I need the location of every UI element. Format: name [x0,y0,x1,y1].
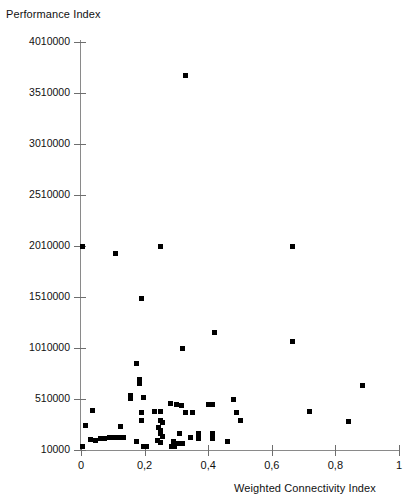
data-point-marker [212,330,217,335]
data-point-marker [158,440,163,445]
y-axis-tick-label: 3510000 [4,86,70,98]
data-point-marker [90,408,95,413]
y-axis-tick-label: 2010000 [4,239,70,251]
y-axis-tick-label: 4010000 [4,35,70,47]
x-axis-title: Weighted Connectivity Index [234,482,376,494]
data-point-marker [137,381,142,386]
data-point-marker [180,346,185,351]
y-axis-title: Performance Index [6,8,101,20]
data-point-marker [238,418,243,423]
plot-area [81,42,399,450]
data-point-marker [168,401,173,406]
data-point-marker [188,435,193,440]
x-axis-tick-label: 0,4 [188,459,228,471]
data-point-marker [290,244,295,249]
data-point-marker [80,444,85,449]
data-point-marker [158,409,163,414]
data-point-marker [113,251,118,256]
y-axis-tick-label: 1510000 [4,290,70,302]
data-point-marker [346,419,351,424]
data-point-marker [172,444,177,449]
data-point-marker [196,436,201,441]
data-point-marker [179,403,184,408]
data-point-marker [231,397,236,402]
data-point-marker [290,339,295,344]
data-point-marker [210,402,215,407]
data-point-marker [80,244,85,249]
data-point-marker [177,431,182,436]
scatter-chart: Performance Index 1000051000010100001510… [0,0,410,501]
data-point-marker [183,73,188,78]
data-point-marker [307,409,312,414]
data-point-marker [134,439,139,444]
y-axis-tick-label: 10000 [4,443,70,455]
x-axis-tick [399,445,400,456]
x-axis-tick-label: 0,6 [252,459,292,471]
data-point-marker [121,435,126,440]
x-axis-line [80,450,400,451]
data-point-marker [144,444,149,449]
data-point-marker [158,244,163,249]
data-point-marker [141,395,146,400]
data-point-marker [134,361,139,366]
data-point-marker [139,410,144,415]
y-axis-tick-label: 1010000 [4,341,70,353]
x-axis-tick-label: 1 [379,459,410,471]
y-axis-tick-label: 510000 [4,392,70,404]
data-point-marker [118,424,123,429]
data-point-marker [183,410,188,415]
data-point-marker [225,439,230,444]
x-axis-tick-label: 0,2 [125,459,165,471]
y-axis-tick [74,450,86,451]
x-axis-tick-label: 0 [61,459,101,471]
data-point-marker [128,396,133,401]
data-point-marker [210,436,215,441]
y-axis-tick-label: 3010000 [4,137,70,149]
x-axis-tick-label: 0,8 [315,459,355,471]
data-point-marker [234,410,239,415]
data-point-marker [139,418,144,423]
data-point-marker [190,410,195,415]
data-point-marker [139,296,144,301]
data-point-marker [160,434,165,439]
data-point-marker [180,441,185,446]
data-point-marker [152,409,157,414]
y-axis-tick-label: 2510000 [4,188,70,200]
data-point-marker [83,423,88,428]
data-point-marker [360,383,365,388]
